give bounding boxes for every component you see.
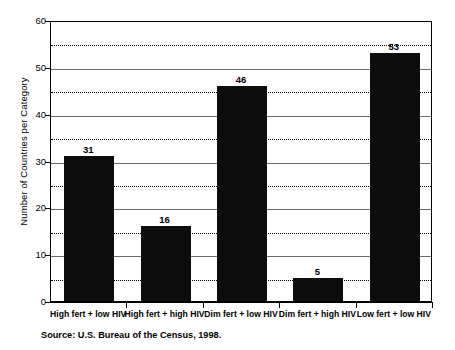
x-category-label: Low fert + low HIV <box>349 310 439 319</box>
bar-value-label: 16 <box>135 215 195 225</box>
x-tick-mark <box>279 303 280 308</box>
y-tick-mark-20 <box>45 208 50 209</box>
bar[interactable] <box>293 278 343 301</box>
plot-area <box>50 21 432 302</box>
bar[interactable] <box>141 226 191 301</box>
y-tick-mark-0 <box>45 302 50 303</box>
x-tick-mark <box>432 303 433 308</box>
y-tick-label-40: 40 <box>20 110 46 120</box>
bar-value-label: 53 <box>364 42 424 52</box>
bar[interactable] <box>217 86 267 301</box>
bar-chart-figure: Number of Countries per Category 0102030… <box>0 0 455 350</box>
bar[interactable] <box>370 53 420 301</box>
y-tick-label-30: 30 <box>20 157 46 167</box>
y-tick-label-10: 10 <box>20 250 46 260</box>
x-tick-mark <box>356 303 357 308</box>
bar-value-label: 5 <box>287 267 347 277</box>
y-tick-mark-60 <box>45 21 50 22</box>
y-tick-label-60: 60 <box>20 16 46 26</box>
y-tick-mark-40 <box>45 115 50 116</box>
x-tick-mark <box>203 303 204 308</box>
y-tick-mark-10 <box>45 255 50 256</box>
y-tick-label-50: 50 <box>20 63 46 73</box>
x-tick-mark <box>126 303 127 308</box>
bar[interactable] <box>64 156 114 301</box>
y-tick-label-20: 20 <box>20 204 46 214</box>
bar-value-label: 46 <box>211 75 271 85</box>
y-tick-mark-50 <box>45 68 50 69</box>
source-note: Source: U.S. Bureau of the Census, 1998. <box>41 330 221 340</box>
y-tick-mark-30 <box>45 162 50 163</box>
x-axis-line <box>50 302 433 303</box>
bar-value-label: 31 <box>58 145 118 155</box>
y-tick-label-0: 0 <box>20 297 46 307</box>
